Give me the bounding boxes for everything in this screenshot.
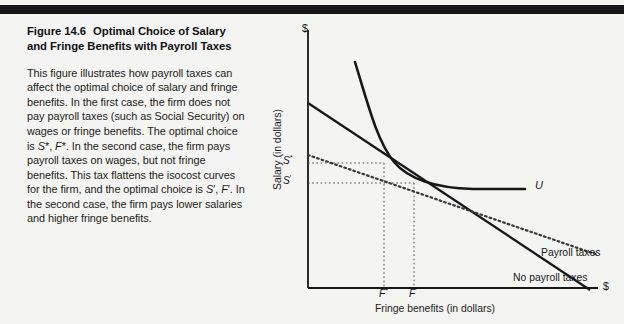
guide-lines xyxy=(308,163,414,288)
x-tick-f-prime: F′ xyxy=(409,288,417,299)
chart: S* S′ F* F′ $ $ U Payroll taxes No payro… xyxy=(258,16,624,324)
x-axis-title: Fringe benefits (in dollars) xyxy=(320,303,550,314)
header-rule xyxy=(0,5,624,14)
y-tick-s-star: S* xyxy=(283,155,293,166)
figure-page: Figure 14.6Optimal Choice of Salary and … xyxy=(0,0,624,324)
x-axis-dollar-marker: $ xyxy=(603,280,609,292)
x-tick-f-star: F* xyxy=(379,288,388,299)
figure-body-text: This figure illustrates how payroll taxe… xyxy=(27,66,245,226)
figure-number: Figure 14.6 xyxy=(27,25,86,37)
curve-label-u: U xyxy=(535,179,543,191)
isocost-payroll-taxes xyxy=(308,155,598,255)
curve-label-no-payroll-taxes: No payroll taxes xyxy=(513,272,588,283)
y-axis-title: Salary (in dollars) xyxy=(272,95,283,205)
caption-block: Figure 14.6Optimal Choice of Salary and … xyxy=(27,24,245,226)
y-axis-dollar-marker: $ xyxy=(302,22,308,34)
figure-title: Figure 14.6Optimal Choice of Salary and … xyxy=(27,24,245,55)
curve-label-payroll-taxes: Payroll taxes xyxy=(541,247,600,258)
y-tick-s-prime: S′ xyxy=(283,175,291,186)
isocost-no-payroll-taxes xyxy=(308,103,590,290)
indifference-curve-u xyxy=(355,62,525,189)
